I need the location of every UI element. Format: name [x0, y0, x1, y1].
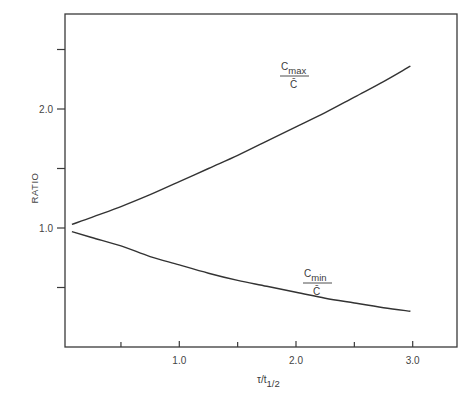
cmax-label: CmaxC̄: [280, 61, 309, 90]
y-axis-ticks: 1.02.0: [39, 50, 65, 288]
y-axis-title: RATIO: [29, 173, 40, 204]
svg-text:Cmin: Cmin: [304, 268, 327, 283]
cmin-label: CminC̄: [303, 268, 332, 297]
y-tick-label: 1.0: [39, 223, 53, 234]
plot-frame: [65, 14, 457, 347]
svg-text:C̄: C̄: [290, 78, 297, 90]
x-tick-label: 1.0: [172, 355, 186, 366]
curve-labels: CmaxC̄CminC̄: [280, 61, 332, 297]
x-axis-title-main: τ/t: [257, 374, 267, 385]
x-tick-label: 2.0: [289, 355, 303, 366]
svg-text:Cmax: Cmax: [281, 61, 306, 76]
x-axis-title: τ/t1/2: [257, 374, 280, 389]
ratio-chart: 1.02.03.0 1.02.0 CmaxC̄CminC̄ RATIO τ/t1…: [0, 0, 471, 395]
curves: [72, 66, 411, 311]
x-axis-ticks: 1.02.03.0: [121, 341, 420, 366]
x-axis-title-sub: 1/2: [267, 378, 280, 389]
svg-text:C̄: C̄: [313, 285, 320, 297]
cmax-curve: [72, 66, 411, 224]
x-tick-label: 3.0: [406, 355, 420, 366]
cmin-curve: [72, 232, 411, 312]
y-tick-label: 2.0: [39, 104, 53, 115]
